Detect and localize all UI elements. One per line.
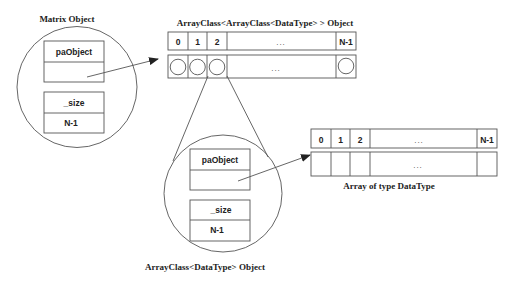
- outer-array-title: ArrayClass<ArrayClass<DataType> > Object: [177, 18, 353, 28]
- matrix-paobject-field: paObject: [44, 41, 104, 82]
- matrix-size-value: N-1: [64, 118, 78, 128]
- matrix-object-title: Matrix Object: [39, 14, 94, 24]
- data-array-title: Array of type DataType: [343, 181, 435, 191]
- outer-index-ellipsis: ...: [276, 38, 286, 47]
- inner-size-value: N-1: [210, 225, 224, 235]
- inner-paobject-field: paObject: [190, 149, 250, 190]
- inner-object-title: ArrayClass<DataType> Object: [145, 262, 265, 272]
- outer-row-ellipsis: ...: [271, 64, 281, 73]
- inner-size-field: _size N-1: [190, 200, 250, 241]
- inner-object: paObject _size N-1 ArrayClass<DataType> …: [145, 135, 310, 272]
- matrix-object: Matrix Object paObject _size N-1: [17, 14, 158, 148]
- data-array: 0 1 2 ... N-1 ... Array of type DataType: [311, 129, 497, 191]
- matrix-size-field: _size N-1: [44, 92, 104, 133]
- outer-index-0: 0: [176, 37, 181, 47]
- zoom-cone-left-line: [173, 76, 208, 161]
- data-index-2: 2: [358, 135, 363, 145]
- matrix-size-label: _size: [63, 98, 85, 108]
- outer-index-last: N-1: [339, 37, 353, 47]
- data-index-0: 0: [319, 135, 324, 145]
- inner-size-label: _size: [210, 205, 232, 215]
- data-index-1: 1: [338, 135, 343, 145]
- outer-array: ArrayClass<ArrayClass<DataType> > Object…: [168, 18, 356, 78]
- data-index-last: N-1: [480, 135, 494, 145]
- matrix-paobject-label: paObject: [56, 47, 93, 57]
- memory-layout-diagram: Matrix Object paObject _size N-1 ArrayCl…: [0, 0, 512, 285]
- outer-index-1: 1: [195, 37, 200, 47]
- outer-index-2: 2: [215, 37, 220, 47]
- zoom-cone-right-line: [227, 76, 268, 157]
- data-array-element-row: [311, 152, 497, 176]
- inner-paobject-label: paObject: [202, 155, 239, 165]
- data-row-ellipsis: ...: [413, 161, 423, 170]
- data-index-ellipsis: ...: [414, 136, 424, 145]
